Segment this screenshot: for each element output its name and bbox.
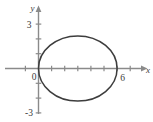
y-axis-label: y — [30, 3, 35, 13]
y-tick-label-3: 3 — [27, 20, 32, 30]
x-axis-label: x — [145, 65, 150, 75]
ellipse-graph-figure: 0 6 3 -3 x y — [0, 0, 153, 122]
y-tick-label-minus-3: -3 — [25, 108, 33, 118]
y-axis-arrowhead — [36, 6, 42, 13]
x-tick-label-0: 0 — [32, 72, 37, 82]
coordinate-plot: 0 6 3 -3 x y — [0, 0, 153, 122]
x-tick-label-6: 6 — [120, 73, 125, 83]
